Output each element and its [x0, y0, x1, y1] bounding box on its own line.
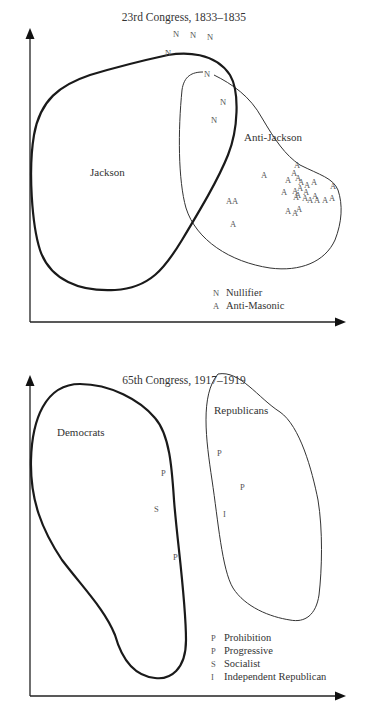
mark-anti-masonic: A — [311, 177, 318, 187]
region-label-democrats: Democrats — [57, 426, 105, 438]
legend-key-independent-republican: I — [211, 672, 214, 682]
mark-anti-masonic: A — [281, 187, 288, 197]
region-label-republicans: Republicans — [214, 404, 268, 416]
mark-nullifier: N — [207, 32, 213, 42]
mark-anti-masonic: A — [307, 195, 314, 205]
panel-title: 23rd Congress, 1833–1835 — [122, 11, 247, 24]
mark-nullifier: N — [165, 48, 171, 58]
mark-nullifier: N — [190, 30, 196, 40]
mark-anti-masonic: A — [293, 192, 300, 202]
congress-diagrams: 23rd Congress, 1833–1835 Jackson Anti-Ja… — [0, 0, 368, 713]
legend-label-nullifier: Nullifier — [226, 287, 263, 298]
region-outline-jackson — [31, 54, 236, 291]
mark-independent-republican: I — [223, 509, 226, 519]
mark-progressive: P — [240, 482, 245, 492]
legend-label-independent-republican: Independent Republican — [224, 671, 327, 682]
legend-key-nullifier: N — [213, 288, 219, 298]
x-axis-arrow-icon — [335, 692, 346, 701]
legend-label-socialist: Socialist — [224, 658, 260, 669]
legend-label-progressive: Progressive — [224, 645, 273, 656]
mark-anti-masonic: A — [314, 195, 321, 205]
mark-anti-masonic: A — [261, 170, 268, 180]
y-axis-arrow-icon — [26, 28, 35, 39]
mark-progressive: P — [161, 468, 166, 478]
region-label-jackson: Jackson — [90, 166, 125, 178]
legend-key-anti-masonic: A — [213, 301, 220, 311]
legend-key-progressive: P — [211, 646, 216, 656]
legend-65th: P Prohibition P Progressive S Socialist … — [211, 632, 327, 682]
anti-masonic-marks: AAAAAAAAAAAAAAAAAAAAAAAAAAA — [226, 160, 337, 229]
panel-title: 65th Congress, 1917–1919 — [122, 374, 246, 387]
region-outline-democrats — [31, 384, 186, 678]
mark-nullifier: N — [211, 115, 217, 125]
mark-anti-masonic: A — [297, 183, 304, 193]
mark-progressive: P — [217, 448, 222, 458]
legend-23rd: N Nullifier A Anti-Masonic — [213, 287, 285, 311]
mark-nullifier: N — [204, 69, 210, 79]
mark-prohibition: P — [173, 552, 178, 562]
mark-anti-masonic: A — [322, 195, 329, 205]
mark-anti-masonic: A — [230, 219, 237, 229]
y-axis-arrow-icon — [26, 375, 35, 386]
mark-anti-masonic: A — [296, 204, 303, 214]
legend-key-prohibition: P — [211, 633, 216, 643]
panel-65th-congress: 65th Congress, 1917–1919 Democrats Repub… — [26, 374, 347, 701]
x-axis-arrow-icon — [335, 318, 346, 327]
panel-23rd-congress: 23rd Congress, 1833–1835 Jackson Anti-Ja… — [26, 11, 347, 327]
legend-label-prohibition: Prohibition — [224, 632, 272, 643]
mark-anti-masonic: A — [232, 196, 239, 206]
mark-anti-masonic: A — [329, 193, 336, 203]
mark-socialist: S — [154, 504, 159, 514]
third-party-marks: P S P P P I — [154, 448, 245, 562]
mark-anti-masonic: A — [285, 206, 292, 216]
legend-key-socialist: S — [211, 659, 216, 669]
mark-anti-masonic: A — [330, 181, 337, 191]
mark-nullifier: N — [173, 29, 179, 39]
legend-label-anti-masonic: Anti-Masonic — [226, 300, 285, 311]
mark-nullifier: N — [220, 97, 226, 107]
region-label-anti-jackson: Anti-Jackson — [244, 131, 303, 143]
mark-anti-masonic: A — [285, 175, 292, 185]
